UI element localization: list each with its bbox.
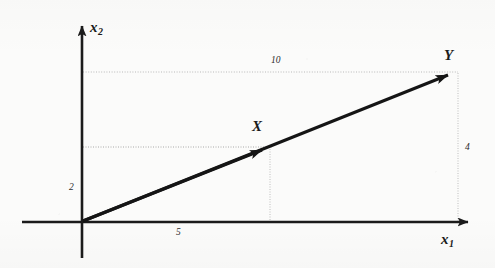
x-axis-label-subscript: 1 xyxy=(449,238,454,249)
vector-y-label: Y xyxy=(444,48,453,63)
measurement-label-4: 4 xyxy=(465,143,470,153)
vector-diagram-figure: x2 x1 X Y 2 5 10 4 xyxy=(0,0,495,268)
y-axis-label-base: x xyxy=(90,19,98,35)
vectors xyxy=(83,75,448,221)
y-axis-label: x2 xyxy=(90,20,103,37)
measurement-label-5: 5 xyxy=(176,228,181,238)
measurement-label-10: 10 xyxy=(271,56,281,66)
vector-x-line xyxy=(83,150,262,221)
y-axis-label-subscript: 2 xyxy=(98,26,103,37)
measurement-label-2: 2 xyxy=(69,183,74,193)
diagram-canvas xyxy=(0,0,495,268)
x-axis-label: x1 xyxy=(441,232,454,249)
vector-x-label: X xyxy=(252,119,262,134)
x-axis-label-base: x xyxy=(441,231,449,247)
axes xyxy=(22,26,468,258)
